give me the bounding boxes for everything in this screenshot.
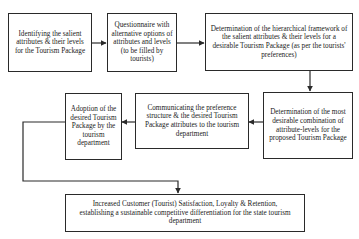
box-text: Increased Customer (Tourist) Satisfactio… bbox=[76, 200, 294, 226]
box-text: Adoption of the desired Tourism Package … bbox=[69, 105, 118, 148]
box-hierarchical-framework: Determination of the hierarchical framew… bbox=[205, 13, 353, 71]
box-communicating-preferences: Communicating the preference structure &… bbox=[135, 93, 249, 149]
box-text: Determination of the hierarchical framew… bbox=[209, 25, 349, 59]
box-outcome: Increased Customer (Tourist) Satisfactio… bbox=[65, 194, 305, 232]
box-text: Identifying the salient attributes & the… bbox=[12, 30, 88, 56]
box-adoption: Adoption of the desired Tourism Package … bbox=[65, 93, 122, 160]
box-text: Communicating the preference structure &… bbox=[139, 104, 245, 138]
box-text: Questionnaire with alternative options o… bbox=[111, 21, 173, 64]
box-identify-attributes: Identifying the salient attributes & the… bbox=[8, 13, 92, 72]
box-desirable-combination: Determination of the most desirable comb… bbox=[263, 92, 353, 159]
box-text: Determination of the most desirable comb… bbox=[267, 108, 349, 142]
box-questionnaire: Questionnaire with alternative options o… bbox=[107, 13, 177, 72]
